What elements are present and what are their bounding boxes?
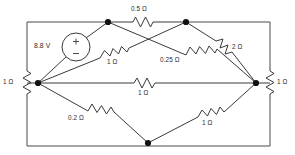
label-resistor-right-side: 1 Ω [277, 79, 287, 85]
node-left [35, 80, 41, 86]
node-top-right [183, 19, 189, 25]
label-voltage-source: 8.8 V [34, 43, 50, 50]
circuit-svg [0, 0, 295, 155]
branch-upper-right [108, 22, 256, 83]
node-top-left [105, 19, 111, 25]
branch-upper-left [38, 22, 186, 83]
node-bottom [145, 140, 151, 146]
label-resistor-top-right: 2 Ω [232, 44, 242, 50]
circuit-diagram: 0.5 Ω 1 Ω 1 Ω 1 Ω 0.25 Ω 2 Ω 1 Ω 0.2 Ω 1… [0, 0, 295, 155]
label-resistor-upper-left: 1 Ω [107, 59, 117, 65]
label-resistor-top-middle: 0.5 Ω [131, 6, 147, 12]
label-resistor-upper-right: 0.25 Ω [160, 57, 180, 63]
label-resistor-lower-left: 0.2 Ω [68, 115, 84, 121]
label-resistor-middle: 1 Ω [138, 90, 148, 96]
label-resistor-left-side: 1 Ω [3, 79, 13, 85]
label-resistor-lower-right: 1 Ω [202, 120, 212, 126]
node-right [253, 80, 259, 86]
branch-lower-left [38, 83, 148, 143]
branch-middle [38, 78, 256, 88]
branch-top-middle [108, 17, 186, 27]
branch-lower-right [148, 83, 256, 143]
branch-voltage-source [38, 22, 108, 83]
